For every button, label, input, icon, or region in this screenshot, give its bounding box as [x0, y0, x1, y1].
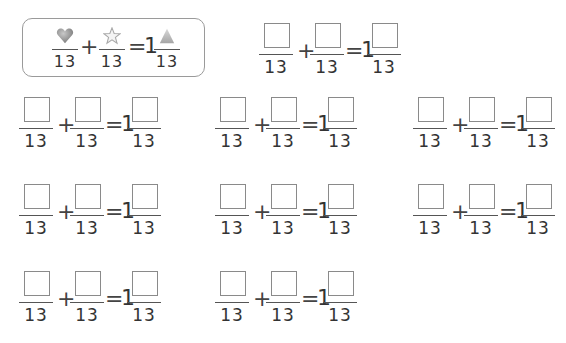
fraction-bar — [323, 302, 357, 303]
equation-8: 13 + 13 = 1 13 — [19, 271, 169, 331]
denominator: 13 — [413, 131, 447, 151]
denominator: 13 — [259, 57, 293, 77]
denominator: 13 — [215, 131, 249, 151]
answer-box-1[interactable] — [24, 97, 50, 122]
answer-box-3[interactable] — [132, 97, 158, 122]
answer-box-2[interactable] — [315, 23, 341, 48]
fraction-bar — [259, 54, 293, 55]
fraction-bar — [70, 215, 104, 216]
fraction-bar — [323, 128, 357, 129]
answer-box-2[interactable] — [75, 271, 101, 296]
denominator: 13 — [70, 218, 104, 238]
triangle-icon — [158, 27, 176, 45]
answer-box-2[interactable] — [271, 184, 297, 209]
denominator: 13 — [19, 305, 53, 325]
answer-box-3[interactable] — [132, 271, 158, 296]
fraction-bar — [464, 128, 498, 129]
fraction-bar — [19, 128, 53, 129]
answer-box-3[interactable] — [328, 97, 354, 122]
answer-box-1[interactable] — [220, 184, 246, 209]
denominator: 13 — [521, 131, 555, 151]
fraction-bar — [266, 128, 300, 129]
denominator: 13 — [19, 218, 53, 238]
example-equation: 13 + 13 = 1 13 — [52, 19, 202, 79]
equation-3: 13 + 13 = 1 13 — [215, 97, 365, 157]
denominator: 13 — [70, 305, 104, 325]
denominator: 13 — [323, 305, 357, 325]
fraction-bar — [323, 215, 357, 216]
answer-box-1[interactable] — [24, 184, 50, 209]
fraction-bar — [70, 302, 104, 303]
denominator: 13 — [52, 52, 78, 71]
denominator: 13 — [323, 218, 357, 238]
denominator: 13 — [367, 57, 401, 77]
equation-5: 13 + 13 = 1 13 — [19, 184, 169, 244]
fraction-bar — [413, 128, 447, 129]
answer-box-2[interactable] — [75, 97, 101, 122]
denominator: 13 — [266, 305, 300, 325]
fraction-bar — [266, 215, 300, 216]
answer-box-3[interactable] — [132, 184, 158, 209]
equation-6: 13 + 13 = 1 13 — [215, 184, 365, 244]
plus-sign: + — [80, 36, 98, 58]
denominator: 13 — [127, 305, 161, 325]
denominator: 13 — [266, 218, 300, 238]
denominator: 13 — [127, 131, 161, 151]
answer-box-1[interactable] — [418, 97, 444, 122]
denominator: 13 — [464, 131, 498, 151]
denominator: 13 — [70, 131, 104, 151]
answer-box-3[interactable] — [328, 271, 354, 296]
fraction-bar — [154, 49, 180, 50]
fraction-bar — [521, 215, 555, 216]
answer-box-3[interactable] — [526, 184, 552, 209]
star-icon — [103, 27, 121, 45]
fraction-bar — [215, 215, 249, 216]
answer-box-1[interactable] — [264, 23, 290, 48]
answer-box-1[interactable] — [220, 97, 246, 122]
denominator: 13 — [413, 218, 447, 238]
fraction-bar — [266, 302, 300, 303]
answer-box-2[interactable] — [469, 184, 495, 209]
fraction-bar — [70, 128, 104, 129]
answer-box-3[interactable] — [328, 184, 354, 209]
fraction-bar — [19, 302, 53, 303]
denominator: 13 — [19, 131, 53, 151]
fraction-bar — [215, 128, 249, 129]
fraction-bar — [367, 54, 401, 55]
fraction-bar — [127, 302, 161, 303]
answer-box-2[interactable] — [75, 184, 101, 209]
fraction-bar — [215, 302, 249, 303]
equation-4: 13 + 13 = 1 13 — [413, 97, 563, 157]
answer-box-2[interactable] — [271, 97, 297, 122]
fraction-bar — [127, 215, 161, 216]
fraction-bar — [310, 54, 344, 55]
fraction-bar — [19, 215, 53, 216]
denominator: 13 — [521, 218, 555, 238]
answer-box-1[interactable] — [418, 184, 444, 209]
fraction-bar — [521, 128, 555, 129]
equation-1: 13 + 13 = 1 13 — [259, 23, 409, 83]
answer-box-3[interactable] — [372, 23, 398, 48]
equation-9: 13 + 13 = 1 13 — [215, 271, 365, 331]
answer-box-2[interactable] — [271, 271, 297, 296]
denominator: 13 — [154, 52, 180, 71]
heart-icon — [56, 27, 74, 45]
denominator: 13 — [323, 131, 357, 151]
answer-box-2[interactable] — [469, 97, 495, 122]
fraction-bar — [99, 49, 125, 50]
equation-2: 13 + 13 = 1 13 — [19, 97, 169, 157]
denominator: 13 — [99, 52, 125, 71]
answer-box-1[interactable] — [24, 271, 50, 296]
fraction-bar — [127, 128, 161, 129]
equation-7: 13 + 13 = 1 13 — [413, 184, 563, 244]
denominator: 13 — [464, 218, 498, 238]
denominator: 13 — [215, 218, 249, 238]
fraction-bar — [413, 215, 447, 216]
answer-box-1[interactable] — [220, 271, 246, 296]
denominator: 13 — [127, 218, 161, 238]
denominator: 13 — [266, 131, 300, 151]
denominator: 13 — [310, 57, 344, 77]
answer-box-3[interactable] — [526, 97, 552, 122]
fraction-bar — [464, 215, 498, 216]
fraction-bar — [52, 49, 78, 50]
